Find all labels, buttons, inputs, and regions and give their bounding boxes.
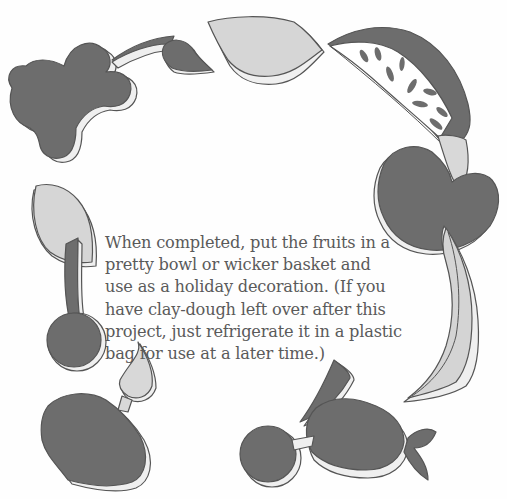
cherry-icon xyxy=(32,185,106,371)
instruction-paragraph: When completed, put the fruits in a pret… xyxy=(105,232,395,365)
paragraph-line: project, just refrigerate it in a plasti… xyxy=(105,321,395,343)
paragraph-line: use as a holiday decoration. (If you xyxy=(105,276,395,298)
pear-plum-icon xyxy=(240,360,436,487)
paragraph-line: bag for use at a later time.) xyxy=(105,343,395,365)
leaf-icon xyxy=(208,17,324,85)
grape-cluster-icon xyxy=(9,36,214,162)
book-page: When completed, put the fruits in a pret… xyxy=(0,0,507,499)
paragraph-line: When completed, put the fruits in a xyxy=(105,232,395,254)
watermelon-slice-icon xyxy=(328,28,470,146)
paragraph-line: pretty bowl or wicker basket and xyxy=(105,254,395,276)
paragraph-line: have clay-dough left over after this xyxy=(105,299,395,321)
